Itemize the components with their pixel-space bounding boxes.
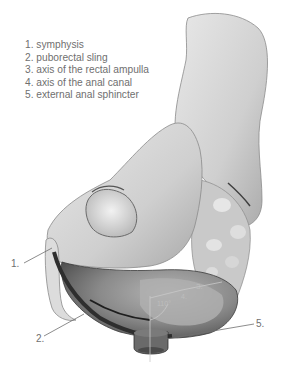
pelvis-illustration [0,0,304,367]
callout-3: 3. [196,282,203,291]
callout-2: 2. [36,333,44,344]
callout-4: 4. [181,293,187,300]
angle-label: 110° [157,300,171,307]
callout-5: 5. [256,318,264,329]
callout-1: 1. [11,258,19,269]
